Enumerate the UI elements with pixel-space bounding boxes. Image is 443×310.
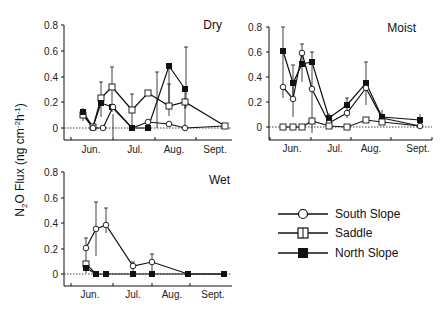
legend-item-south-slope: South Slope	[278, 207, 401, 221]
panel-dry: 0.8 0.6 0.4 0.2 0 Jun. Jul. Aug. Sept. D…	[44, 18, 232, 155]
svg-text:Sept.: Sept.	[203, 144, 226, 155]
svg-text:0: 0	[256, 122, 262, 133]
panel-wet: 0.8 0.6 0.4 0.2 0 Jun. Jul. Aug. Sept. W…	[44, 167, 232, 300]
svg-text:Aug.: Aug.	[162, 289, 183, 300]
svg-text:0.4: 0.4	[44, 72, 58, 83]
panel-title-moist: Moist	[387, 21, 416, 35]
svg-text:0.6: 0.6	[248, 47, 262, 58]
svg-text:0.2: 0.2	[44, 244, 58, 255]
svg-text:Sept.: Sept.	[201, 289, 224, 300]
svg-text:0.8: 0.8	[44, 167, 58, 178]
svg-text:Aug.: Aug.	[164, 144, 185, 155]
svg-text:0.6: 0.6	[44, 193, 58, 204]
open-circle-icon	[299, 210, 308, 219]
svg-text:Jun.: Jun.	[283, 143, 302, 154]
svg-text:0.8: 0.8	[248, 22, 262, 33]
svg-text:0.8: 0.8	[44, 20, 58, 31]
svg-text:0.2: 0.2	[44, 97, 58, 108]
legend: South Slope Saddle North Slope	[278, 207, 401, 260]
figure: N2O Flux (ng cm-2h-1) 0.8 0.6 0.4 0.2 0 …	[0, 0, 443, 310]
svg-text:0.2: 0.2	[248, 97, 262, 108]
legend-item-north-slope: North Slope	[278, 246, 399, 260]
svg-text:0: 0	[52, 123, 58, 134]
svg-text:Saddle: Saddle	[335, 226, 373, 240]
legend-item-saddle: Saddle	[278, 226, 373, 240]
filled-square-icon	[298, 248, 308, 258]
svg-text:Sept.: Sept.	[406, 143, 429, 154]
svg-text:Jul.: Jul.	[127, 144, 143, 155]
svg-text:South Slope: South Slope	[335, 207, 401, 221]
panel-moist: 0.8 0.6 0.4 0.2 0 Jun. Jul. Aug. Sept. M…	[248, 21, 432, 154]
svg-text:Jun.: Jun.	[81, 289, 100, 300]
panel-title-dry: Dry	[203, 18, 222, 32]
svg-text:North Slope: North Slope	[335, 246, 399, 260]
svg-text:0.4: 0.4	[248, 72, 262, 83]
svg-text:Aug.: Aug.	[361, 143, 382, 154]
svg-text:Jul.: Jul.	[327, 143, 343, 154]
panel-title-wet: Wet	[209, 173, 231, 187]
svg-text:0.6: 0.6	[44, 46, 58, 57]
svg-text:N2O Flux (ng cm-2h-1): N2O Flux (ng cm-2h-1)	[13, 103, 29, 216]
svg-text:0: 0	[52, 269, 58, 280]
y-axis-label: N2O Flux (ng cm-2h-1)	[13, 103, 29, 216]
svg-text:0.4: 0.4	[44, 218, 58, 229]
svg-text:Jun.: Jun.	[82, 144, 101, 155]
svg-text:Jul.: Jul.	[125, 289, 141, 300]
